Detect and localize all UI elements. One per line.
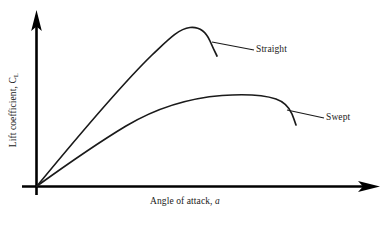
- curve-label-swept: Swept: [326, 112, 350, 122]
- y-axis-label: Lift coefficient, CL: [8, 73, 20, 147]
- y-axis-label-subscript: L: [12, 73, 20, 77]
- x-axis-label-text: Angle of attack,: [150, 196, 215, 206]
- lift-curve-figure: Lift coefficient, CL Angle of attack, a …: [0, 0, 391, 225]
- x-axis-label: Angle of attack, a: [150, 196, 220, 206]
- y-axis-label-container: Lift coefficient, CL: [6, 55, 22, 165]
- curve-straight: [37, 27, 217, 186]
- curve-label-straight: Straight: [256, 44, 287, 54]
- straight-leader-line: [212, 42, 254, 50]
- y-axis-label-text: Lift coefficient, C: [8, 77, 18, 147]
- x-axis-label-symbol: a: [215, 196, 220, 206]
